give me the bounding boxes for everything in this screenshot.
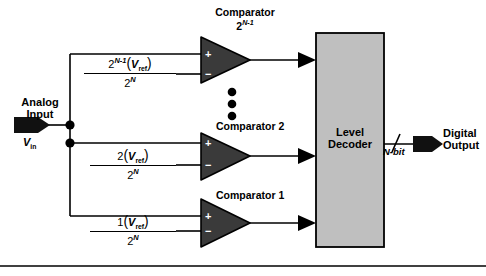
diagram-canvas: Analog Input Vin Comparator 2N-1 Compara… [0, 0, 486, 276]
vref-top-den-exp: N [130, 75, 135, 84]
level-decoder-label-line1: Level [316, 126, 384, 138]
vref-fraction-top-denominator: 2N [84, 74, 176, 89]
vin-subscript: in [30, 143, 36, 150]
vref-fraction-top: 2N-1(Vref) 2N [84, 56, 176, 89]
vref-fraction-bottom-denominator: 2N [90, 232, 176, 247]
digital-output-label-line2: Output [443, 139, 486, 151]
arrowhead-bottom [298, 215, 316, 231]
arrowhead-top [298, 52, 316, 68]
diagram-vector-layer [0, 0, 486, 276]
vref-bot-den-exp: N [133, 233, 138, 242]
junction-dot-lower [65, 138, 74, 147]
vref-fraction-middle-denominator: 2N [90, 166, 176, 181]
reference-wires [176, 74, 201, 231]
comparator-1-label-text: Comparator 1 [216, 189, 284, 201]
vref-mid-var: Vref [128, 150, 144, 162]
n-bit-bus-label: N-bit [383, 147, 405, 158]
vref-mid-den-exp: N [133, 167, 138, 176]
comparator-top-exponent: N-1 [242, 19, 253, 27]
comparator-1-triangle [201, 199, 250, 247]
vref-top-coef-exp: N-1 [114, 56, 126, 65]
vref-top-var-sub: ref [138, 65, 147, 72]
n-bit-bus-label-text: N-bit [383, 146, 405, 157]
analog-input-label-line2: Input [10, 108, 70, 120]
vref-fraction-middle-numerator: 2(Vref) [90, 148, 176, 165]
digital-output-arrow-icon [413, 136, 443, 152]
comparator-top-label-line2: 2N-1 [202, 19, 288, 32]
vref-bot-var: Vref [128, 216, 144, 228]
digital-output-label-line1: Digital [443, 127, 486, 139]
comparator-top-label: Comparator 2N-1 [202, 7, 288, 32]
level-decoder-label: Level Decoder [316, 126, 384, 151]
comparator-1-plus-sign: + [205, 211, 211, 222]
vref-fraction-top-numerator: 2N-1(Vref) [84, 56, 176, 73]
comparator-top-label-line1: Comparator [202, 7, 288, 19]
vref-top-paren-close: ) [147, 56, 152, 71]
comparator-1-label: Comparator 1 [216, 190, 284, 202]
analog-input-label: Analog Input [10, 96, 70, 121]
vref-fraction-bottom-numerator: 1(Vref) [90, 214, 176, 231]
vref-top-var: Vref [131, 58, 147, 70]
analog-input-label-line1: Analog [10, 96, 70, 108]
vertical-ellipsis-dots [228, 88, 237, 121]
decoder-input-arrowheads [298, 52, 316, 231]
vref-mid-var-sub: ref [135, 157, 144, 164]
arrowhead-middle [298, 148, 316, 164]
junction-dot-upper [65, 120, 74, 129]
vref-bot-var-sub: ref [135, 223, 144, 230]
comparator-top-minus-sign: − [205, 69, 211, 80]
comparator-2-minus-sign: − [205, 160, 211, 171]
digital-output-label: Digital Output [443, 127, 486, 152]
vref-fraction-middle: 2(Vref) 2N [90, 148, 176, 181]
comparator-2-plus-sign: + [205, 138, 211, 149]
vref-fraction-bottom: 1(Vref) 2N [90, 214, 176, 247]
vref-bot-paren-close: ) [144, 214, 149, 229]
vin-label: Vin [23, 136, 36, 150]
level-decoder-label-line2: Decoder [316, 138, 384, 150]
vref-mid-paren-close: ) [144, 148, 149, 163]
comparator-1-minus-sign: − [205, 226, 211, 237]
ellipsis-dot-2 [228, 100, 237, 109]
ellipsis-dot-3 [228, 112, 237, 121]
comparator-2-label: Comparator 2 [216, 121, 284, 133]
comparator-2-label-text: Comparator 2 [216, 120, 284, 132]
comparator-top-plus-sign: + [205, 49, 211, 60]
ellipsis-dot-1 [228, 88, 237, 97]
